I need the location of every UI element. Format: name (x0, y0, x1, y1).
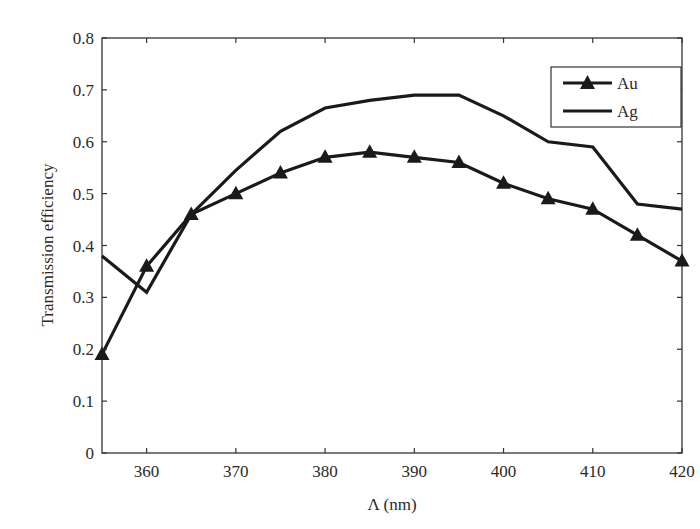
triangle-marker-icon (362, 144, 377, 158)
x-axis-label: Λ (nm) (367, 495, 416, 514)
y-tick-label: 0 (86, 444, 95, 463)
x-tick-label: 380 (312, 462, 338, 481)
y-tick-label: 0.4 (73, 237, 95, 256)
series-au (95, 144, 690, 360)
series-line-au (102, 152, 682, 354)
x-tick-label: 420 (669, 462, 695, 481)
y-tick-label: 0.3 (73, 288, 94, 307)
y-tick-label: 0.5 (73, 185, 94, 204)
series-layer (95, 95, 690, 360)
triangle-marker-icon (95, 346, 110, 360)
y-tick-label: 0.8 (73, 29, 94, 48)
legend: Au Ag (551, 67, 681, 127)
x-tick-label: 360 (134, 462, 160, 481)
legend-box (551, 67, 681, 127)
x-tick-label: 400 (491, 462, 517, 481)
legend-label-ag: Ag (617, 102, 638, 121)
legend-label-au: Au (617, 74, 638, 93)
x-tick-label: 370 (223, 462, 249, 481)
line-chart: 00.10.20.30.40.50.60.70.8 36037038039040… (0, 0, 700, 529)
y-tick-label: 0.7 (73, 81, 95, 100)
y-axis-label: Transmission efficiency (38, 163, 57, 326)
y-tick-label: 0.1 (73, 392, 94, 411)
x-tick-label: 410 (580, 462, 606, 481)
y-tick-label: 0.6 (73, 133, 94, 152)
y-tick-label: 0.2 (73, 340, 94, 359)
x-tick-label: 390 (402, 462, 428, 481)
